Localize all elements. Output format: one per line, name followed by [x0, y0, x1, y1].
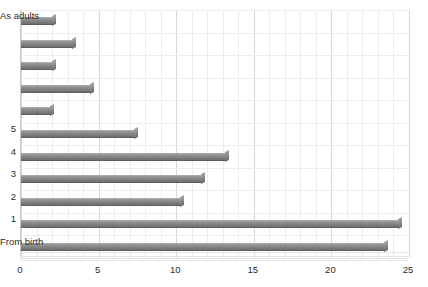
- bar: [21, 62, 54, 70]
- y-axis-tick-label: As adults: [0, 11, 39, 21]
- bar-cap: [134, 127, 138, 139]
- bar: [21, 40, 74, 48]
- bar-cap: [72, 37, 76, 49]
- bar-row: [21, 105, 409, 117]
- bar: [21, 243, 386, 251]
- bar-cap: [50, 104, 54, 116]
- bar-cap: [225, 149, 229, 161]
- x-axis-tick-label: 20: [325, 264, 336, 275]
- y-axis-tick-label: 5: [0, 124, 16, 134]
- bar-row: [21, 241, 409, 253]
- gridline-horizontal: [21, 55, 408, 56]
- bar-cap: [180, 195, 184, 207]
- plot-area: [20, 10, 408, 258]
- chart-title: [0, 0, 428, 1]
- bar-row: [21, 15, 409, 27]
- bar: [21, 198, 182, 206]
- bar-cap: [52, 59, 56, 71]
- bar: [21, 153, 227, 161]
- bar: [21, 85, 92, 93]
- bar-row: [21, 151, 409, 163]
- bar-chart: From birth12345As adults 0510152025: [0, 0, 428, 287]
- gridline-horizontal: [21, 145, 408, 146]
- bar-cap: [384, 240, 388, 252]
- y-axis-tick-label: From birth: [0, 237, 43, 247]
- bar-row: [21, 38, 409, 50]
- gridline-horizontal: [21, 213, 408, 214]
- chart-base-plate: [20, 252, 408, 262]
- y-axis-tick-label: 2: [0, 192, 16, 202]
- bar-cap: [52, 14, 56, 26]
- bar: [21, 130, 136, 138]
- bar-cap: [201, 172, 205, 184]
- y-axis-tick-label: 3: [0, 169, 16, 179]
- bar-cap: [90, 82, 94, 94]
- gridline-horizontal: [21, 123, 408, 124]
- gridline-horizontal: [21, 33, 408, 34]
- bar-row: [21, 128, 409, 140]
- gridline-vertical: [409, 10, 410, 258]
- bar: [21, 107, 52, 115]
- x-axis-tick-label: 10: [170, 264, 181, 275]
- bar-row: [21, 173, 409, 185]
- x-axis-tick-label: 5: [95, 264, 100, 275]
- bar-row: [21, 218, 409, 230]
- gridline-horizontal: [21, 78, 408, 79]
- x-axis-tick-label: 15: [248, 264, 259, 275]
- x-axis-tick-label: 25: [403, 264, 414, 275]
- gridline-horizontal: [21, 168, 408, 169]
- bar-row: [21, 196, 409, 208]
- y-axis-tick-label: 1: [0, 214, 16, 224]
- x-axis-tick-label: 0: [17, 264, 22, 275]
- gridline-horizontal: [21, 235, 408, 236]
- bar: [21, 220, 400, 228]
- bar: [21, 175, 203, 183]
- bar-cap: [398, 217, 402, 229]
- bar-row: [21, 83, 409, 95]
- gridline-horizontal: [21, 10, 408, 11]
- y-axis-tick-label: 4: [0, 147, 16, 157]
- gridline-horizontal: [21, 190, 408, 191]
- gridline-horizontal: [21, 100, 408, 101]
- bar-row: [21, 60, 409, 72]
